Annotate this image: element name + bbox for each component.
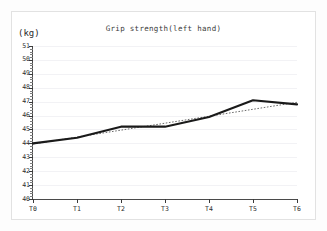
chart-figure: Grip strength(left hand) (kg) 4041424344…: [0, 0, 327, 231]
series-container: [0, 0, 327, 231]
grip-strength-series: [33, 100, 297, 143]
